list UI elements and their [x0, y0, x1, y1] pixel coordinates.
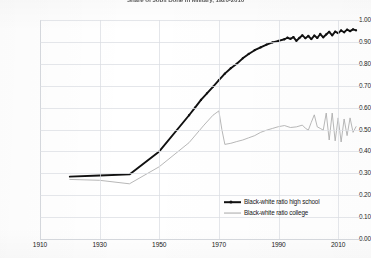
series-point — [316, 37, 318, 39]
series-point — [265, 43, 267, 45]
series-point — [352, 28, 354, 30]
gridline-horizontal — [40, 64, 362, 65]
legend-label-college: Black-white ratio college — [244, 208, 308, 219]
gridline-horizontal — [40, 239, 362, 240]
series-point — [283, 38, 285, 40]
series-point — [259, 46, 261, 48]
x-axis-tick-label: 1990 — [271, 241, 285, 248]
legend-item-high-school: Black-white ratio high school — [224, 197, 319, 208]
x-axis-tick-label: 2010 — [331, 241, 345, 248]
x-axis-tick-label: 1910 — [33, 241, 47, 248]
series-point — [230, 67, 232, 69]
series-point — [289, 38, 291, 40]
series-point — [346, 28, 348, 30]
series-point — [310, 38, 312, 40]
series-point — [349, 30, 351, 32]
gridline-horizontal — [40, 20, 362, 21]
series-point — [340, 29, 342, 31]
series-point — [298, 37, 300, 39]
series-point — [343, 31, 345, 33]
legend-swatch-high-school-icon — [224, 198, 241, 207]
gridline-horizontal — [40, 151, 362, 152]
x-axis-tick-label: 1930 — [92, 241, 106, 248]
series-point — [355, 29, 357, 31]
chart-title: Share of Jobs Done in Military, 1920-201… — [0, 0, 371, 3]
series-point — [254, 49, 256, 51]
series-point — [319, 33, 321, 35]
x-axis-tick-label: 1950 — [152, 241, 166, 248]
chart-legend: Black-white ratio high school Black-whit… — [224, 197, 319, 218]
series-point — [224, 73, 226, 75]
series-point — [188, 114, 190, 116]
gridline-horizontal — [40, 86, 362, 87]
series-line — [70, 29, 356, 176]
gridline-horizontal — [40, 42, 362, 43]
series-point — [325, 33, 327, 35]
series-point — [248, 53, 250, 55]
gridline-horizontal — [40, 173, 362, 174]
series-point — [286, 37, 288, 39]
series-point — [334, 30, 336, 32]
legend-label-high-school: Black-white ratio high school — [244, 197, 319, 208]
series-point — [242, 57, 244, 59]
series-point — [328, 31, 330, 33]
series-point — [322, 36, 324, 38]
series-point — [200, 99, 202, 101]
legend-swatch-college-icon — [224, 208, 241, 217]
legend-item-college: Black-white ratio college — [224, 208, 319, 219]
series-point — [304, 37, 306, 39]
series-point — [331, 34, 333, 36]
series-point — [206, 92, 208, 94]
series-point — [313, 34, 315, 36]
series-point — [301, 34, 303, 36]
x-axis-tick-label: 1970 — [212, 241, 226, 248]
series-point — [292, 36, 294, 38]
series-point — [307, 35, 309, 37]
gridline-horizontal — [40, 130, 362, 131]
gridline-horizontal — [40, 108, 362, 109]
